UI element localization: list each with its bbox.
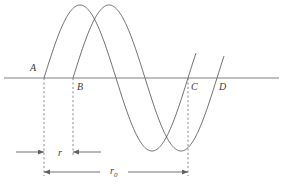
dashed-guide-lines (44, 78, 188, 176)
measure-label-r: r (58, 148, 62, 158)
measure-label-r0: r0 (110, 166, 117, 179)
diagram-canvas (0, 0, 283, 190)
wave-diagram-figure: A B C D r r0 (0, 0, 283, 190)
point-label-b: B (77, 82, 83, 92)
point-label-a: A (30, 63, 36, 73)
measure-label-r0-subscript: 0 (114, 171, 118, 179)
point-label-c: C (191, 82, 198, 92)
point-label-d: D (219, 82, 226, 92)
